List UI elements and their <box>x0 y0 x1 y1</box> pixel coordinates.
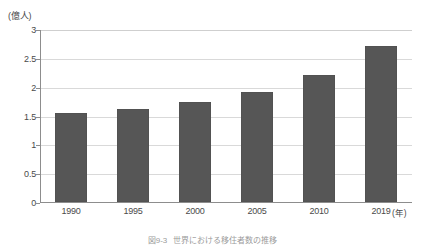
bar-slot-2010 <box>288 30 350 202</box>
plot-area <box>40 30 412 203</box>
x-tick-label-1995: 1995 <box>123 206 142 216</box>
bar-slot-2005 <box>226 30 288 202</box>
x-tick-label-2005: 2005 <box>247 206 266 216</box>
y-tick-label-2-5: 2.5 <box>2 54 36 64</box>
bar-2019 <box>365 46 397 202</box>
x-tick-label-2000: 2000 <box>185 206 204 216</box>
y-tick-label-0: 0 <box>2 198 36 208</box>
y-tick-mark <box>36 203 40 204</box>
y-tick-label-3: 3 <box>2 25 36 35</box>
bar-1995 <box>117 109 149 202</box>
y-tick-label-1: 1 <box>2 140 36 150</box>
bar-2005 <box>241 92 273 202</box>
y-tick-label-2: 2 <box>2 83 36 93</box>
x-axis-line <box>40 202 412 203</box>
figure-caption-number: 図9-3 <box>148 236 168 245</box>
bar-2010 <box>303 75 335 202</box>
y-tick-label-0-5: 0.5 <box>2 169 36 179</box>
y-axis-ticks: 00.511.522.53 <box>0 30 36 203</box>
bar-slot-1990 <box>40 30 102 202</box>
x-axis-ticks: 199019952000200520102019 <box>40 206 412 220</box>
bar-1990 <box>55 113 87 202</box>
bar-slot-1995 <box>102 30 164 202</box>
bar-series <box>40 30 412 202</box>
bar-slot-2019 <box>350 30 412 202</box>
x-tick-label-2010: 2010 <box>309 206 328 216</box>
bar-2000 <box>179 102 211 202</box>
figure-caption-text: 世界における移住者数の推移 <box>173 236 277 245</box>
y-axis-unit-label: (億人) <box>8 9 31 22</box>
x-tick-label-2019: 2019 <box>371 206 390 216</box>
y-tick-label-1-5: 1.5 <box>2 112 36 122</box>
bar-slot-2000 <box>164 30 226 202</box>
figure-caption: 図9-3世界における移住者数の推移 <box>0 234 425 245</box>
x-tick-label-1990: 1990 <box>61 206 80 216</box>
x-axis-unit-label: (年) <box>392 206 407 218</box>
